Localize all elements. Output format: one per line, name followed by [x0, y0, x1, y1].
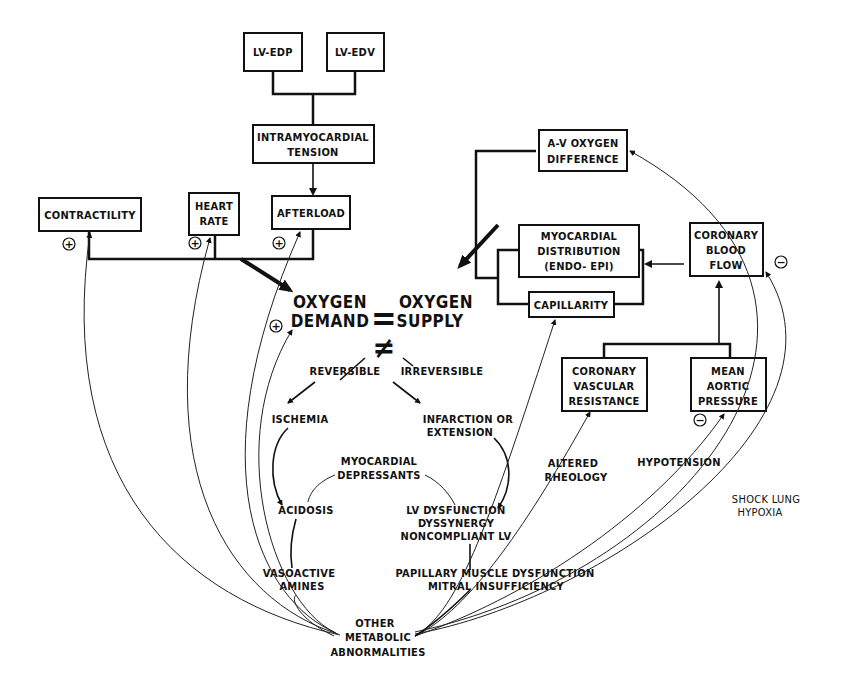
svg-text:AFTERLOAD: AFTERLOAD — [277, 207, 345, 220]
box-mean-aortic-pressure: MEAN AORTIC PRESSURE — [691, 358, 766, 411]
depressants-to-acidosis-line — [308, 475, 335, 502]
svg-text:(ENDO- EPI): (ENDO- EPI) — [544, 260, 613, 273]
svg-text:CORONARY: CORONARY — [694, 229, 759, 242]
svg-text:ABNORMALITIES: ABNORMALITIES — [330, 646, 425, 659]
svg-text:AMINES: AMINES — [279, 580, 324, 593]
svg-text:PRESSURE: PRESSURE — [698, 395, 758, 408]
svg-text:+: + — [274, 237, 283, 250]
svg-text:MYOCARDIAL: MYOCARDIAL — [541, 230, 618, 243]
box-lv-edv: LV-EDV — [327, 33, 384, 71]
plus-sign-afterload: + — [273, 237, 285, 250]
ischemia-label: ISCHEMIA — [272, 413, 329, 426]
svg-text:CAPILLARITY: CAPILLARITY — [534, 299, 609, 312]
svg-text:+: + — [64, 238, 73, 251]
papillary-muscle-label: PAPILLARY MUSCLE DYSFUNCTION MITRAL INSU… — [395, 567, 594, 593]
svg-text:AORTIC: AORTIC — [707, 380, 750, 393]
svg-text:DYSSYNERGY: DYSSYNERGY — [418, 517, 495, 530]
svg-text:CONTRACTILITY: CONTRACTILITY — [44, 209, 136, 222]
svg-text:EXTENSION: EXTENSION — [427, 426, 493, 439]
svg-text:SHOCK LUNG: SHOCK LUNG — [732, 493, 800, 506]
svg-text:RHEOLOGY: RHEOLOGY — [545, 471, 608, 484]
svg-text:HEART: HEART — [195, 200, 233, 213]
box-heart-rate: HEART RATE — [189, 193, 239, 235]
box-coronary-blood-flow: CORONARY BLOOD FLOW — [690, 223, 763, 276]
svg-text:METABOLIC: METABOLIC — [345, 631, 411, 644]
box-av-oxygen-difference: A-V OXYGEN DIFFERENCE — [539, 130, 627, 171]
not-equal-sign: ≠ — [373, 330, 396, 365]
supply-arrow — [460, 225, 498, 266]
minus-sign-blood-flow: − — [775, 256, 787, 269]
lv-dysfunction-label: LV DYSFUNCTION DYSSYNERGY NONCOMPLIANT L… — [401, 504, 512, 543]
box-contractility: CONTRACTILITY — [39, 198, 141, 231]
svg-text:RATE: RATE — [199, 215, 228, 228]
svg-text:NONCOMPLIANT LV: NONCOMPLIANT LV — [401, 530, 512, 543]
shock-lung-label: SHOCK LUNG HYPOXIA — [732, 493, 800, 519]
svg-text:FLOW: FLOW — [709, 259, 742, 272]
oxygen-supply-label: OXYGEN SUPPLY — [396, 292, 473, 331]
svg-text:MEAN: MEAN — [711, 365, 745, 378]
svg-text:DIFFERENCE: DIFFERENCE — [547, 153, 619, 166]
svg-text:INTRAMYOCARDIAL: INTRAMYOCARDIAL — [257, 131, 369, 144]
box-coronary-vascular-resistance: CORONARY VASCULAR RESISTANCE — [562, 358, 647, 411]
svg-text:LV-EDP: LV-EDP — [253, 46, 293, 59]
svg-text:DEPRESSANTS: DEPRESSANTS — [337, 469, 421, 482]
reversible-label: REVERSIBLE — [310, 365, 381, 378]
svg-text:+: + — [190, 237, 199, 250]
box-lv-edp: LV-EDP — [244, 33, 302, 71]
svg-text:MYOCARDIAL: MYOCARDIAL — [341, 455, 418, 468]
svg-text:−: − — [695, 414, 704, 427]
acidosis-to-amines-line — [291, 519, 296, 568]
svg-text:INFARCTION OR: INFARCTION OR — [423, 413, 514, 426]
irreversible-label: IRREVERSIBLE — [401, 365, 484, 378]
irreversible-arrow — [393, 382, 420, 403]
svg-text:DEMAND: DEMAND — [291, 311, 370, 331]
altered-rheology-label: ALTERED RHEOLOGY — [545, 457, 608, 484]
myocardial-depressants-label: MYOCARDIAL DEPRESSANTS — [337, 455, 421, 482]
oxygen-demand-label: OXYGEN DEMAND — [291, 292, 370, 331]
svg-text:HYPOXIA: HYPOXIA — [737, 506, 782, 519]
svg-text:VASOACTIVE: VASOACTIVE — [263, 567, 336, 580]
vasoactive-amines-label: VASOACTIVE AMINES — [263, 567, 336, 593]
svg-text:OTHER: OTHER — [355, 617, 394, 630]
plus-sign-heart-rate: + — [189, 237, 201, 250]
svg-text:SUPPLY: SUPPLY — [396, 311, 463, 331]
svg-text:TENSION: TENSION — [287, 146, 338, 159]
svg-text:−: − — [776, 256, 785, 269]
svg-text:PAPILLARY MUSCLE DYSFUNCTION: PAPILLARY MUSCLE DYSFUNCTION — [395, 567, 594, 580]
plus-sign-contractility: + — [63, 238, 75, 251]
oxygen-balance-diagram: LV-EDP LV-EDV INTRAMYOCARDIAL TENSION CO… — [0, 0, 860, 696]
box-afterload: AFTERLOAD — [272, 196, 350, 229]
resistance-pressure-bus — [604, 344, 730, 358]
svg-text:CORONARY: CORONARY — [572, 365, 637, 378]
infarction-to-lv-arrow — [494, 438, 509, 508]
svg-text:MITRAL INSUFFICIENCY: MITRAL INSUFFICIENCY — [428, 580, 565, 593]
svg-text:RESISTANCE: RESISTANCE — [568, 395, 639, 408]
other-metabolic-label: OTHER METABOLIC ABNORMALITIES — [330, 617, 425, 659]
plus-sign-demand: + — [270, 320, 282, 333]
curve-from-papillary — [415, 590, 470, 636]
svg-text:ALTERED: ALTERED — [548, 457, 598, 470]
box-intramyocardial-tension: INTRAMYOCARDIAL TENSION — [253, 125, 374, 163]
depressants-to-lv-line — [425, 475, 455, 505]
edp-edv-connector — [273, 71, 355, 94]
box-capillarity: CAPILLARITY — [529, 292, 614, 317]
infarction-label: INFARCTION OR EXTENSION — [423, 413, 514, 439]
minus-sign-aortic-pressure: − — [694, 414, 706, 427]
svg-text:A-V OXYGEN: A-V OXYGEN — [547, 137, 618, 150]
ischemia-to-acidosis-arrow — [273, 428, 288, 505]
svg-text:OXYGEN: OXYGEN — [399, 292, 473, 312]
svg-text:LV-EDV: LV-EDV — [335, 46, 375, 59]
box-myocardial-distribution: MYOCARDIAL DISTRIBUTION (ENDO- EPI) — [519, 225, 639, 277]
svg-text:DISTRIBUTION: DISTRIBUTION — [537, 245, 620, 258]
svg-text:+: + — [271, 320, 280, 333]
svg-text:VASCULAR: VASCULAR — [574, 380, 635, 393]
svg-text:OXYGEN: OXYGEN — [293, 292, 367, 312]
acidosis-label: ACIDOSIS — [278, 504, 334, 517]
reversible-arrow — [288, 382, 315, 403]
